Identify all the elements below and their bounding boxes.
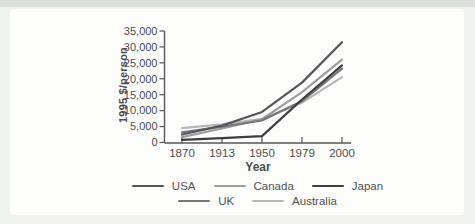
y-tick-label: 5,000: [130, 120, 158, 132]
legend-item-canada: Canada: [214, 180, 294, 192]
legend-swatch-canada: [214, 185, 246, 188]
page: 05,00010,00015,00020,00025,00030,00035,0…: [0, 0, 475, 224]
legend-item-australia: Australia: [252, 195, 337, 207]
x-axis-title: Year: [160, 160, 356, 174]
y-axis-title: 1995 $/person: [117, 25, 129, 145]
x-tick-label: 1950: [249, 147, 275, 159]
legend-item-uk: UK: [178, 195, 234, 207]
x-tick-label: 1913: [209, 147, 235, 159]
legend-label-usa: USA: [172, 180, 196, 192]
legend-item-japan: Japan: [312, 180, 383, 192]
legend-row-1: USACanadaJapan: [132, 180, 383, 192]
legend-swatch-usa: [132, 185, 164, 188]
x-tick-label: 2000: [329, 147, 355, 159]
legend-swatch-australia: [252, 200, 284, 203]
legend-label-uk: UK: [218, 195, 234, 207]
chart-legend: USACanadaJapanUKAustralia: [40, 180, 475, 207]
y-tick-label: 0: [151, 136, 157, 148]
x-tick-label: 1870: [169, 147, 195, 159]
legend-label-canada: Canada: [254, 180, 294, 192]
legend-item-usa: USA: [132, 180, 196, 192]
legend-label-japan: Japan: [352, 180, 383, 192]
legend-swatch-japan: [312, 185, 344, 188]
x-tick-label: 1979: [289, 147, 315, 159]
legend-row-2: UKAustralia: [178, 195, 337, 207]
legend-swatch-uk: [178, 200, 210, 203]
legend-label-australia: Australia: [292, 195, 337, 207]
